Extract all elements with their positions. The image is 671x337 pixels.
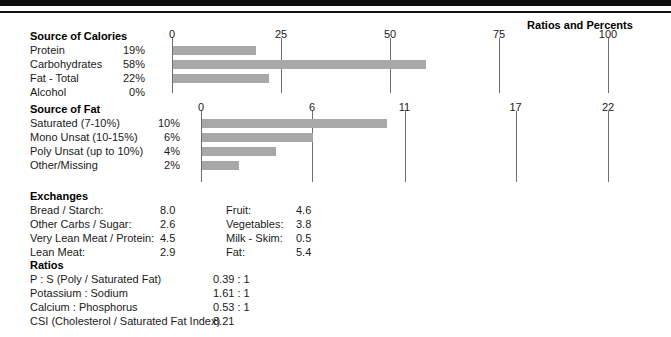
- exchange-value: 3.8: [296, 218, 311, 230]
- exchange-label: Fruit:: [226, 204, 251, 216]
- row-value: 0%: [95, 86, 145, 98]
- exchange-value: 4.6: [296, 204, 311, 216]
- ratio-value: 0.53 : 1: [213, 301, 250, 313]
- exchange-label: Vegetables:: [226, 218, 284, 230]
- row-value: 22%: [95, 72, 145, 84]
- ratio-label: P : S (Poly / Saturated Fat): [30, 273, 161, 285]
- exchange-label: Bread / Starch:: [30, 204, 103, 216]
- section-title-ratios: Ratios: [30, 259, 64, 271]
- ratio-value: 8.21: [213, 315, 234, 327]
- bar: [202, 161, 239, 170]
- exchange-label: Lean Meat:: [30, 246, 85, 258]
- exchange-value: 2.9: [160, 246, 175, 258]
- axis-tick-line: [608, 38, 609, 93]
- exchange-value: 4.5: [160, 232, 175, 244]
- exchange-value: 2.6: [160, 218, 175, 230]
- top-thick-rule: [0, 0, 671, 6]
- exchange-label: Other Carbs / Sugar:: [30, 218, 132, 230]
- row-label: Protein: [30, 44, 65, 56]
- section-title-source-of-calories: Source of Calories: [30, 30, 127, 42]
- row-label: Fat - Total: [30, 72, 79, 84]
- row-value: 4%: [140, 145, 180, 157]
- row-label: Alcohol: [30, 86, 66, 98]
- row-label: Poly Unsat (up to 10%): [30, 145, 143, 157]
- axis-tick-line: [516, 111, 517, 182]
- exchange-value: 5.4: [296, 246, 311, 258]
- section-title-source-of-fat: Source of Fat: [30, 103, 100, 115]
- row-value: 58%: [95, 58, 145, 70]
- bar: [173, 60, 426, 69]
- exchange-label: Very Lean Meat / Protein:: [30, 232, 154, 244]
- top-thin-rule: [0, 11, 671, 13]
- section-title-exchanges: Exchanges: [30, 190, 88, 202]
- nutrition-report-page: Ratios and Percents Source of Calories 0…: [0, 0, 671, 337]
- exchange-label: Milk - Skim:: [226, 232, 283, 244]
- row-value: 2%: [140, 159, 180, 171]
- ratio-label: Calcium : Phosphorus: [30, 301, 138, 313]
- row-value: 6%: [140, 131, 180, 143]
- bar: [173, 46, 256, 55]
- exchange-label: Fat:: [226, 246, 245, 258]
- row-label: Carbohydrates: [30, 58, 102, 70]
- bar: [202, 119, 387, 128]
- bar: [202, 133, 313, 142]
- row-label: Other/Missing: [30, 159, 98, 171]
- ratio-value: 0.39 : 1: [213, 273, 250, 285]
- axis-tick-line: [405, 111, 406, 182]
- row-label: Mono Unsat (10-15%): [30, 131, 138, 143]
- panel-title-ratios-and-percents: Ratios and Percents: [500, 19, 660, 31]
- ratio-label: CSI (Cholesterol / Saturated Fat Index): [30, 315, 220, 327]
- row-value: 19%: [95, 44, 145, 56]
- row-label: Saturated (7-10%): [30, 117, 120, 129]
- row-value: 10%: [140, 117, 180, 129]
- exchange-value: 8.0: [160, 204, 175, 216]
- exchange-value: 0.5: [296, 232, 311, 244]
- ratio-label: Potassium : Sodium: [30, 287, 128, 299]
- axis-tick-line: [608, 111, 609, 182]
- bar: [173, 74, 269, 83]
- ratio-value: 1.61 : 1: [213, 287, 250, 299]
- axis-tick-line: [499, 38, 500, 93]
- bar: [202, 147, 276, 156]
